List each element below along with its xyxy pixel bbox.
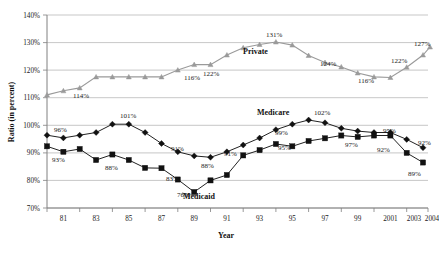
y-tick-90: 90%	[27, 149, 40, 157]
chart-root: 140% 130% 120% 110% 100% 90% 80% 70%	[0, 0, 439, 254]
x-tick-99: 99	[354, 215, 362, 223]
y-tick-110: 110%	[23, 94, 40, 102]
data-label-medicaid-1994: 95%	[278, 144, 291, 152]
y-tick-80: 80%	[27, 177, 40, 185]
data-label-medicare-1985: 101%	[120, 112, 137, 120]
data-label-private-2002: 116%	[358, 77, 374, 85]
x-tick-2003: 2003	[407, 215, 422, 223]
private-markers	[45, 40, 433, 97]
series-label-private: Private	[243, 47, 268, 56]
data-label-medicaid-1981: 93%	[52, 156, 65, 164]
x-tick-93: 93	[256, 215, 264, 223]
medicaid-line	[47, 136, 423, 193]
x-tick-2001: 2001	[383, 215, 398, 223]
data-label-private-1995: 131%	[266, 31, 283, 39]
x-tick-labels: 81 83 85 87 89 91 93 95 97 99 2001 2003 …	[60, 215, 439, 223]
line-chart: 140% 130% 120% 110% 100% 90% 80% 70%	[0, 0, 439, 254]
data-label-medicare-1995: 99%	[275, 129, 288, 137]
data-label-medicaid-1984: 88%	[105, 164, 118, 172]
x-tick-85: 85	[125, 215, 133, 223]
gridlines	[47, 15, 428, 208]
data-label-medicare-1987: 91%	[171, 145, 184, 153]
data-label-medicaid-2003: 92%	[377, 146, 390, 154]
data-label-private-2003: 122%	[391, 57, 408, 65]
x-tick-91: 91	[223, 215, 231, 223]
x-tick-87: 87	[158, 215, 166, 223]
data-label-medicare-2002: 95%	[383, 127, 396, 135]
x-tick-81: 81	[60, 215, 68, 223]
series-label-medicare: Medicare	[257, 108, 290, 117]
x-axis-title: Year	[218, 231, 234, 240]
data-label-medicare-1997: 102%	[314, 109, 331, 117]
data-label-medicaid-2004: 89%	[408, 170, 421, 178]
data-label-medicaid-1989: 76%	[177, 191, 190, 199]
data-label-private-2004: 127%	[414, 40, 431, 48]
y-tick-140: 140%	[23, 12, 40, 20]
x-tick-89: 89	[191, 215, 199, 223]
data-label-private-1991: 122%	[203, 70, 220, 78]
data-label-medicaid-1987: 83%	[166, 175, 179, 183]
data-label-private-1989: 116%	[184, 74, 200, 82]
x-axis-ticks	[47, 208, 428, 212]
y-axis-ticks	[43, 15, 47, 208]
y-tick-130: 130%	[23, 39, 40, 47]
private-line	[47, 42, 430, 95]
data-label-medicare-2004: 92%	[418, 139, 431, 147]
y-axis-title: Ratio (in percent)	[7, 82, 16, 143]
x-tick-97: 97	[321, 215, 329, 223]
data-label-private-1983: 114%	[73, 92, 89, 100]
x-tick-95: 95	[289, 215, 297, 223]
y-tick-labels: 140% 130% 120% 110% 100% 90% 80% 70%	[23, 12, 40, 213]
medicaid-markers	[44, 133, 425, 195]
y-tick-70: 70%	[27, 205, 40, 213]
x-tick-83: 83	[93, 215, 101, 223]
data-label-medicaid-1999: 97%	[345, 141, 358, 149]
data-label-medicare-1991: 91%	[224, 150, 237, 158]
private-data-labels: 114% 116% 122% 131% 124% 116% 122% 127%	[73, 31, 431, 100]
data-label-medicaid-1991: 88%	[201, 162, 214, 170]
x-tick-2004: 2004	[425, 215, 439, 223]
y-tick-120: 120%	[23, 67, 40, 75]
data-label-private-1999: 124%	[320, 60, 337, 68]
data-label-medicare-1981: 96%	[54, 126, 67, 134]
y-tick-100: 100%	[23, 122, 40, 130]
